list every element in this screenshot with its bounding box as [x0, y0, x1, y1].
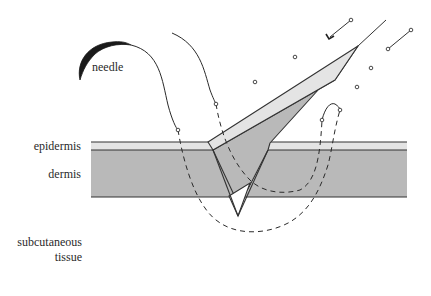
suture-diagram: needle epidermis dermis subcutaneous tis… — [0, 0, 431, 296]
motion-dot — [355, 85, 359, 89]
dermis-layer-left — [91, 150, 235, 197]
needle-label: needle — [92, 60, 123, 74]
dermis-layer-right — [245, 150, 407, 197]
thread-solid-loop — [322, 104, 340, 120]
motion-dot — [293, 55, 297, 59]
dermis-label: dermis — [48, 167, 81, 181]
tissue-label: tissue — [55, 250, 82, 264]
arrow-tail-dot — [349, 18, 353, 22]
epidermis-layer-right — [268, 142, 407, 150]
arrow-shaft — [330, 20, 351, 37]
flap-epidermis — [208, 46, 358, 150]
instrument-line — [358, 20, 386, 46]
thread-knot — [338, 108, 342, 112]
motion-line-right — [388, 30, 411, 49]
motion-dot — [386, 47, 390, 51]
thread-knot — [176, 128, 180, 132]
epidermis-layer-left — [91, 142, 213, 150]
thread-solid-2 — [172, 33, 216, 104]
subcutaneous-label: subcutaneous — [17, 235, 82, 249]
thread-solid-1 — [131, 45, 178, 130]
thread-knot — [214, 102, 218, 106]
motion-dot — [253, 80, 257, 84]
motion-dot — [369, 66, 373, 70]
epidermis-label: epidermis — [34, 139, 82, 153]
motion-dot — [409, 28, 413, 32]
thread-knot — [320, 118, 324, 122]
